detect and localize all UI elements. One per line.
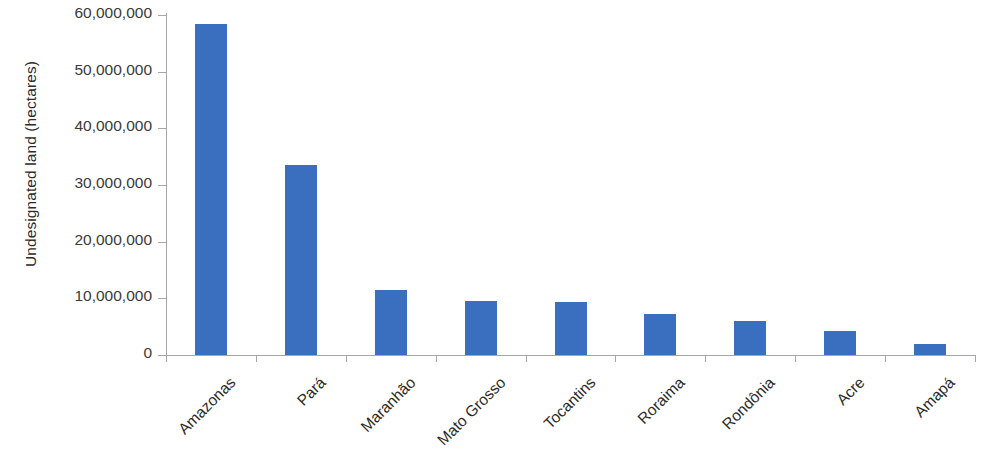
bar-chart: Undesignated land (hectares) 010,000,000… (0, 0, 994, 462)
x-axis-labels: AmazonasParáMaranhãoMato GrossoTocantins… (0, 0, 994, 462)
x-axis-tick-label: Amazonas (14, 374, 239, 462)
